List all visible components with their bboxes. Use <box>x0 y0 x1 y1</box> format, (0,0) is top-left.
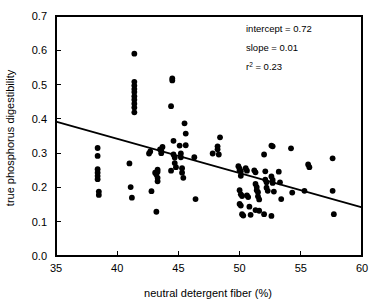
data-point <box>239 193 245 199</box>
data-point <box>131 51 137 57</box>
x-tick-label: 45 <box>172 262 184 274</box>
data-point <box>210 151 216 157</box>
fit-line <box>56 122 362 208</box>
data-point <box>131 109 137 115</box>
data-point <box>246 204 252 210</box>
data-point <box>171 138 177 144</box>
data-point <box>238 203 244 209</box>
annotation-slope: slope = 0.01 <box>246 42 298 53</box>
data-point <box>95 145 101 151</box>
data-point <box>182 120 188 126</box>
x-tick-label: 50 <box>233 262 245 274</box>
x-axis-title: neutral detergent fiber (%) <box>144 287 272 299</box>
y-tick-label: 0.1 <box>32 216 47 228</box>
data-point <box>179 170 185 176</box>
data-point <box>177 143 183 149</box>
data-point <box>155 169 161 175</box>
data-point <box>270 143 276 149</box>
data-point <box>265 188 271 194</box>
data-point <box>306 164 312 170</box>
data-point <box>155 178 161 184</box>
data-point <box>127 161 133 167</box>
y-axis-tick-labels: 0.00.10.20.30.40.50.60.7 <box>32 10 47 262</box>
x-tick-label: 55 <box>295 262 307 274</box>
data-point <box>262 168 268 174</box>
data-point <box>216 152 222 158</box>
data-point <box>149 188 155 194</box>
data-point <box>261 211 267 217</box>
data-point <box>168 168 174 174</box>
y-axis-title: true phosphorus digestibility <box>4 69 16 206</box>
data-point <box>193 196 199 202</box>
data-point <box>215 146 221 152</box>
y-tick-label: 0.4 <box>32 113 47 125</box>
data-point <box>245 194 251 200</box>
data-point <box>256 197 262 203</box>
data-point <box>330 155 336 161</box>
data-point <box>331 211 337 217</box>
data-point <box>269 213 275 219</box>
data-point <box>173 164 179 170</box>
data-point <box>183 131 189 137</box>
data-point <box>96 192 102 198</box>
data-point <box>248 212 254 218</box>
data-point <box>95 153 101 159</box>
data-point <box>244 168 250 174</box>
data-point <box>278 196 284 202</box>
data-point <box>160 144 166 150</box>
x-tick-label: 40 <box>111 262 123 274</box>
data-point <box>169 78 175 84</box>
scatter-plot-figure: 354045505560 0.00.10.20.30.40.50.60.7 ne… <box>0 0 381 308</box>
y-tick-label: 0.6 <box>32 44 47 56</box>
data-point <box>261 152 267 158</box>
statistics-annotation: intercept = 0.72 slope = 0.01 r2 = 0.23 <box>246 23 312 72</box>
data-point <box>183 142 189 148</box>
data-point <box>217 134 223 140</box>
y-tick-label: 0.0 <box>32 250 47 262</box>
data-point <box>289 190 295 196</box>
data-point <box>128 184 134 190</box>
plot-canvas: 354045505560 0.00.10.20.30.40.50.60.7 ne… <box>0 0 381 308</box>
data-point <box>240 213 246 219</box>
data-point <box>153 209 159 215</box>
data-point <box>253 169 259 175</box>
data-points <box>95 51 337 219</box>
data-point <box>288 145 294 151</box>
data-point <box>129 195 135 201</box>
data-point <box>276 169 282 175</box>
data-point <box>180 175 186 181</box>
regression-line <box>56 122 362 208</box>
data-point <box>168 103 174 109</box>
y-tick-label: 0.3 <box>32 147 47 159</box>
y-tick-label: 0.7 <box>32 10 47 22</box>
y-tick-label: 0.2 <box>32 181 47 193</box>
annotation-r-squared: r2 = 0.23 <box>246 61 282 73</box>
data-point <box>95 176 101 182</box>
y-tick-label: 0.5 <box>32 79 47 91</box>
x-tick-label: 35 <box>50 262 62 274</box>
annotation-intercept: intercept = 0.72 <box>246 23 312 34</box>
x-axis-tick-labels: 354045505560 <box>50 262 368 274</box>
data-point <box>256 208 262 214</box>
data-point <box>271 189 277 195</box>
data-point <box>330 188 336 194</box>
x-tick-label: 60 <box>356 262 368 274</box>
axes-frame <box>56 16 362 256</box>
